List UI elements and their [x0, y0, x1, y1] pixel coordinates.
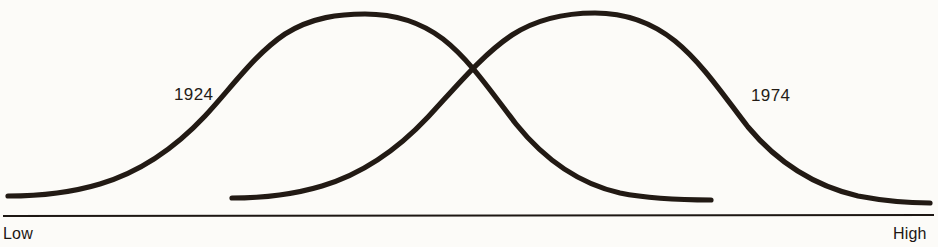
axis-label-high: High	[893, 226, 927, 242]
curve-1974	[232, 13, 930, 203]
horizontal-axis-line	[3, 215, 934, 216]
bell-curve-figure: 1924 1974 Low High	[0, 0, 938, 247]
axis-label-low: Low	[3, 226, 33, 242]
curve-label-1974: 1974	[751, 87, 790, 104]
curves-plot	[0, 0, 938, 247]
curve-label-1924: 1924	[174, 86, 213, 103]
